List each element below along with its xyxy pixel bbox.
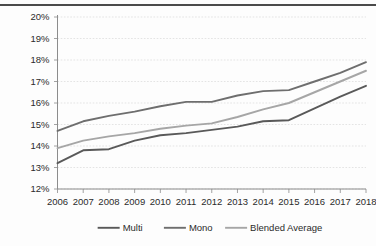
- x-axis-tick-labels: 2006200720082009201020112012201320142015…: [47, 196, 376, 207]
- legend-item-label: Blended Average: [250, 222, 322, 233]
- x-axis-tick-label: 2010: [150, 196, 171, 207]
- y-axis-tick-label: 20%: [30, 11, 50, 22]
- gridlines-group: [54, 17, 366, 189]
- y-axis-tick-label: 16%: [30, 97, 50, 108]
- x-axis-tick-label: 2017: [330, 196, 351, 207]
- axes-group: [58, 15, 367, 193]
- x-axis-tick-label: 2009: [124, 196, 145, 207]
- chart-container: 20%19%18%17%16%15%14%13%12% 200620072008…: [0, 0, 376, 246]
- x-axis-tick-label: 2008: [98, 196, 119, 207]
- y-axis-tick-label: 19%: [30, 33, 50, 44]
- x-axis-tick-label: 2012: [201, 196, 222, 207]
- series-line-mono: [58, 62, 367, 131]
- x-axis-tick-label: 2006: [47, 196, 68, 207]
- series-line-blended-average: [58, 71, 367, 148]
- y-axis-tick-label: 17%: [30, 76, 50, 87]
- x-axis-tick-label: 2007: [73, 196, 94, 207]
- y-axis-tick-label: 13%: [30, 162, 50, 173]
- x-axis-tick-label: 2016: [304, 196, 325, 207]
- chart-legend: MultiMonoBlended Average: [98, 222, 323, 233]
- legend-item-label: Multi: [123, 222, 143, 233]
- x-axis-tick-label: 2011: [176, 196, 196, 207]
- x-axis-tick-label: 2014: [253, 196, 274, 207]
- legend-item-label: Mono: [189, 222, 213, 233]
- y-axis-tick-label: 12%: [30, 183, 50, 194]
- y-axis-tick-label: 15%: [30, 119, 50, 130]
- plot-area-wrapper: 20%19%18%17%16%15%14%13%12% 200620072008…: [0, 0, 376, 246]
- x-axis-tick-label: 2013: [227, 196, 248, 207]
- y-axis-tick-label: 14%: [30, 140, 50, 151]
- line-chart-svg: 20%19%18%17%16%15%14%13%12% 200620072008…: [0, 0, 376, 246]
- y-axis-tick-labels: 20%19%18%17%16%15%14%13%12%: [30, 11, 50, 194]
- x-axis-tick-label: 2015: [278, 196, 299, 207]
- y-axis-tick-label: 18%: [30, 54, 50, 65]
- x-axis-tick-label: 2018: [355, 196, 376, 207]
- data-series-group: [58, 62, 367, 163]
